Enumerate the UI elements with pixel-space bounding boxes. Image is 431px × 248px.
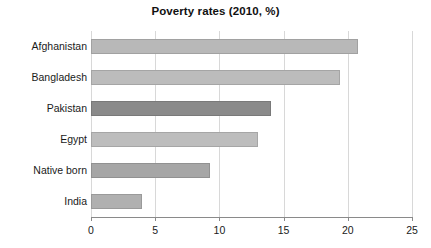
x-gridline [91, 31, 92, 217]
x-axis-tick [412, 217, 413, 221]
x-gridline [219, 31, 220, 217]
chart-title: Poverty rates (2010, %) [0, 5, 431, 17]
bar [91, 70, 340, 85]
x-axis-tick [284, 217, 285, 221]
bar [91, 163, 210, 178]
y-axis-label-pakistan: Pakistan [1, 102, 87, 114]
x-axis-tick [155, 217, 156, 221]
x-axis-line [91, 217, 413, 218]
x-axis-tick-label: 15 [264, 224, 304, 236]
x-gridline [155, 31, 156, 217]
y-axis-label-afghanistan: Afghanistan [1, 40, 87, 52]
x-gridline [348, 31, 349, 217]
bar [91, 194, 142, 209]
x-axis-tick [348, 217, 349, 221]
y-axis-label-egypt: Egypt [1, 133, 87, 145]
y-axis-label-native-born: Native born [1, 164, 87, 176]
x-gridline [284, 31, 285, 217]
poverty-rates-bar-chart: Poverty rates (2010, %) AfghanistanBangl… [0, 0, 431, 248]
bar [91, 101, 271, 116]
x-axis-tick-label: 25 [392, 224, 431, 236]
x-axis-tick-label: 0 [71, 224, 111, 236]
bar [91, 39, 358, 54]
plot-area [91, 31, 412, 217]
x-axis-tick-label: 20 [328, 224, 368, 236]
x-axis-tick-label: 5 [135, 224, 175, 236]
bar [91, 132, 258, 147]
x-axis-tick [219, 217, 220, 221]
x-gridline [412, 31, 413, 217]
x-axis-tick [91, 217, 92, 221]
y-axis-category-labels: AfghanistanBangladeshPakistanEgyptNative… [0, 31, 87, 217]
x-axis-tick-label: 10 [199, 224, 239, 236]
y-axis-label-india: India [1, 195, 87, 207]
y-axis-label-bangladesh: Bangladesh [1, 71, 87, 83]
